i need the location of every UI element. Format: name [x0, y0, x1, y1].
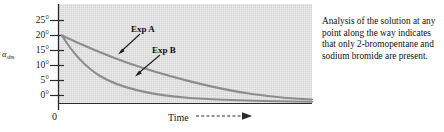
curve-exp-b	[62, 36, 312, 102]
chart-vector-layer	[0, 0, 318, 132]
chart-container: 25° 20° 15° 10° 5° 0° αobs	[0, 0, 318, 132]
series-label-exp-a: Exp A	[131, 24, 155, 34]
series-label-exp-b: Exp B	[152, 45, 176, 55]
curve-exp-a	[62, 36, 312, 100]
x-axis-origin-label: 0	[52, 111, 57, 122]
figure-optical-rotation-vs-time: 25° 20° 15° 10° 5° 0° αobs	[0, 0, 444, 132]
time-direction-arrow-icon	[196, 110, 256, 122]
annotation-arrow-exp-a	[118, 34, 140, 55]
x-axis-title: Time	[168, 112, 189, 123]
y-axis-tick-marks	[50, 21, 64, 96]
figure-caption: Analysis of the solution at any point al…	[322, 16, 444, 62]
